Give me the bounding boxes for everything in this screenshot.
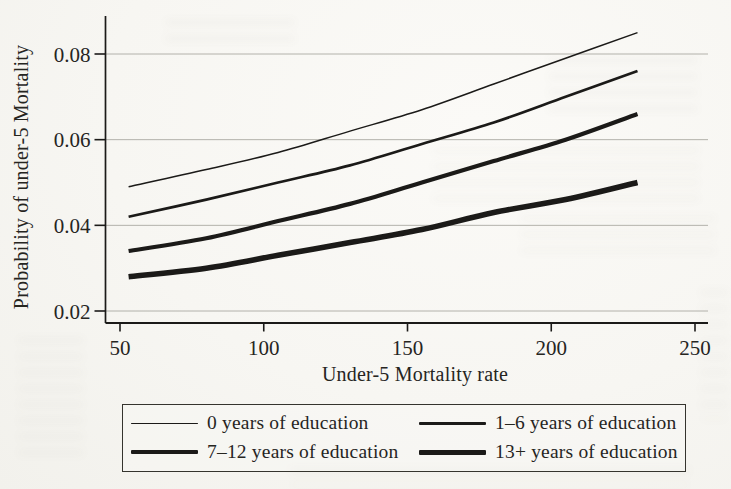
x-axis-title: Under-5 Mortality rate xyxy=(322,363,508,386)
y-tick-label: 0.06 xyxy=(54,128,91,152)
legend-item-7-12-years: 7–12 years of education xyxy=(131,442,419,464)
x-tick-label: 150 xyxy=(392,336,424,360)
legend-label: 13+ years of education xyxy=(495,442,678,464)
legend-label: 1–6 years of education xyxy=(495,413,676,435)
legend-line-sample-medium xyxy=(419,422,486,425)
y-axis-title: Probability of under-5 Mortality xyxy=(10,45,33,309)
legend-line-sample-thickest xyxy=(419,450,486,455)
y-tick-label: 0.08 xyxy=(54,43,91,67)
legend-item-1-6-years: 1–6 years of education xyxy=(419,413,685,435)
y-tick-label: 0.04 xyxy=(54,214,91,238)
legend-label: 7–12 years of education xyxy=(207,442,398,464)
legend-line-sample-thin xyxy=(131,423,198,424)
series-line-3 xyxy=(129,183,638,277)
x-tick-label: 100 xyxy=(248,336,280,360)
scanned-book-figure: 0.020.040.060.0850100150200250 Probabili… xyxy=(0,0,731,489)
y-tick-label: 0.02 xyxy=(54,300,91,324)
legend-box: 0 years of education 1–6 years of educat… xyxy=(122,404,686,472)
x-tick-label: 50 xyxy=(110,336,131,360)
legend-label: 0 years of education xyxy=(207,413,369,435)
legend-item-13plus-years: 13+ years of education xyxy=(419,442,685,464)
x-tick-label: 250 xyxy=(679,336,711,360)
x-tick-label: 200 xyxy=(536,336,568,360)
series-line-2 xyxy=(129,114,638,251)
legend-item-0-years: 0 years of education xyxy=(131,413,419,435)
series-line-0 xyxy=(129,33,638,187)
legend-line-sample-thick xyxy=(131,450,198,454)
